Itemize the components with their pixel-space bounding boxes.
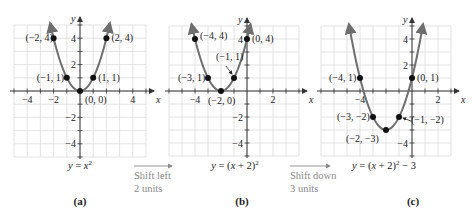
data-point [205, 75, 211, 81]
point-label: (0, 4) [252, 33, 274, 45]
transition-shift: Shift down3 units [290, 166, 337, 194]
point-label: (1, 1) [98, 72, 120, 84]
y-tick-label: −4 [232, 138, 243, 149]
x-tick-label: 2 [436, 94, 441, 105]
point-label: (−1, −2) [411, 114, 444, 126]
point-label: (−3, −2) [337, 111, 370, 123]
data-point [64, 75, 70, 81]
data-point [218, 88, 224, 94]
y-tick-label: 4 [403, 34, 408, 45]
data-point [409, 75, 415, 81]
data-point [231, 75, 237, 81]
pointer-arrow [226, 66, 232, 74]
panel-caption: (b) [235, 195, 249, 208]
data-point [357, 75, 363, 81]
x-tick-label: −4 [355, 94, 366, 105]
x-tick-label: −4 [22, 94, 33, 105]
y-axis-label: y [402, 14, 408, 25]
point-label: (2, 4) [111, 32, 133, 44]
point-label: (−1, 1) [37, 72, 64, 84]
y-tick-label: 2 [403, 60, 408, 71]
panel-caption: (a) [74, 195, 87, 208]
data-point [103, 35, 109, 41]
y-axis-label: y [237, 14, 243, 25]
y-tick-label: −4 [397, 138, 408, 149]
transition-text-line2: 2 units [134, 183, 162, 194]
y-tick-label: −2 [232, 112, 243, 123]
transition-text-line1: Shift down [290, 170, 337, 181]
y-axis-label: y [70, 13, 76, 24]
equation-label: y = x2 [67, 159, 93, 171]
graph-panel-c: xy−4242−4(−4, 1)(0, 1)(−3, −2)(−1, −2)(−… [317, 14, 466, 208]
x-axis-label: x [308, 94, 314, 105]
point-label: (−4, 1) [329, 72, 356, 84]
x-tick-label: 4 [130, 94, 135, 105]
point-label: (−1, 1) [216, 51, 243, 63]
data-point [192, 36, 198, 42]
transition-shift: Shift left2 units [134, 166, 172, 194]
data-point [396, 114, 402, 120]
transition-text-line1: Shift left [134, 170, 171, 181]
y-tick-label: 4 [71, 33, 76, 44]
x-tick-label: 2 [271, 94, 276, 105]
x-tick-label: −4 [190, 94, 201, 105]
pointer-arrow [403, 118, 411, 121]
point-label: (−2, 0) [208, 95, 235, 107]
point-label: (−4, 4) [200, 30, 227, 42]
data-point [90, 75, 96, 81]
point-label: (−2, 4) [26, 32, 53, 44]
y-tick-label: −2 [65, 112, 76, 123]
y-tick-label: 4 [238, 34, 243, 45]
panel-caption: (c) [407, 195, 420, 208]
data-point [383, 127, 389, 133]
x-tick-label: −2 [48, 94, 59, 105]
data-point [77, 88, 83, 94]
equation-label: y = (x + 2)2 − 3 [351, 159, 416, 172]
x-axis-label: x [155, 94, 161, 105]
point-label: (−3, 1) [178, 72, 205, 84]
data-point [370, 114, 376, 120]
parabola-transformations-figure: xy−4−2442−2−4(−2, 4)(2, 4)(−1, 1)(1, 1)(… [0, 0, 472, 219]
point-label: (0, 0) [85, 94, 107, 106]
y-tick-label: 2 [71, 59, 76, 70]
point-label: (−2, −3) [346, 133, 379, 145]
equation-label: y = (x + 2)2 [210, 159, 259, 172]
transition-text-line2: 3 units [290, 183, 318, 194]
data-point [244, 36, 250, 42]
point-label: (0, 1) [417, 72, 439, 84]
y-tick-label: −4 [65, 138, 76, 149]
x-axis-label: x [460, 94, 466, 105]
